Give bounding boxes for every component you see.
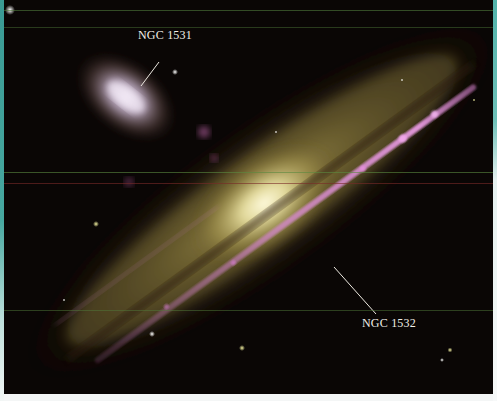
star xyxy=(172,69,178,75)
ngc1532-label: NGC 1532 xyxy=(362,316,416,331)
scan-line xyxy=(4,172,493,173)
ngc1532-leader-line xyxy=(334,267,376,314)
scan-line xyxy=(4,183,493,184)
star xyxy=(440,358,444,362)
star xyxy=(473,99,476,102)
star xyxy=(239,345,245,351)
star xyxy=(275,131,278,134)
star xyxy=(401,79,404,82)
ngc1531-label: NGC 1531 xyxy=(138,28,192,43)
image-frame: NGC 1531 NGC 1532 xyxy=(0,0,497,401)
scan-line xyxy=(4,310,493,311)
star xyxy=(93,221,99,227)
ngc1532-galaxy xyxy=(4,0,493,394)
star xyxy=(448,348,453,353)
galaxy-illustration xyxy=(4,0,493,394)
star xyxy=(63,299,66,302)
galaxy-photograph: NGC 1531 NGC 1532 xyxy=(4,0,493,394)
right-border-strip xyxy=(493,0,497,401)
ngc1531-galaxy xyxy=(58,33,194,161)
star xyxy=(149,331,155,337)
scan-line xyxy=(4,27,493,28)
scan-line xyxy=(4,10,493,11)
